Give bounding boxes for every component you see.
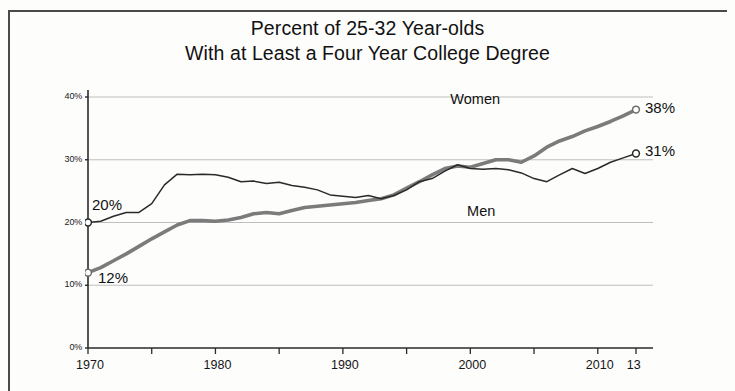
annotation-men-end: 31% bbox=[645, 142, 675, 159]
annotation-men-series: Men bbox=[467, 203, 495, 219]
chart-title-line-2: With at Least a Four Year College Degree bbox=[0, 41, 735, 66]
marker-men-end bbox=[633, 150, 640, 157]
annotation-women-series: Women bbox=[450, 91, 500, 107]
line-chart-svg bbox=[85, 90, 665, 355]
x-tick-label-1970: 1970 bbox=[76, 358, 104, 372]
gridlines bbox=[88, 97, 653, 348]
y-tick-label-20: 20% bbox=[48, 217, 82, 227]
annotation-women-start: 12% bbox=[98, 269, 128, 286]
y-tick-label-10: 10% bbox=[48, 279, 82, 289]
marker-men-start bbox=[85, 219, 91, 226]
page-title: Percent of 25-32 Year-olds With at Least… bbox=[0, 16, 735, 66]
x-tick-label-2010: 2010 bbox=[586, 358, 614, 372]
plot-area bbox=[85, 90, 665, 355]
series-lines bbox=[88, 110, 636, 273]
axis-ticks bbox=[85, 97, 636, 354]
series-line-women bbox=[88, 110, 636, 273]
x-tick-label-1990: 1990 bbox=[331, 358, 359, 372]
x-axis-tick-labels: 1970198019902000201013 bbox=[85, 358, 685, 378]
chart-title-line-1: Percent of 25-32 Year-olds bbox=[0, 16, 735, 41]
x-tick-label-2000: 2000 bbox=[458, 358, 486, 372]
annotation-men-start: 20% bbox=[92, 196, 122, 213]
marker-women-end bbox=[633, 106, 640, 113]
x-tick-label-2013-suffix: 13 bbox=[627, 358, 641, 372]
marker-women-start bbox=[85, 269, 91, 276]
x-tick-label-1980: 1980 bbox=[204, 358, 232, 372]
series-line-men bbox=[88, 153, 636, 222]
y-axis-tick-labels: 0%10%20%30%40% bbox=[44, 90, 82, 355]
chart-figure: Percent of 25-32 Year-olds With at Least… bbox=[0, 0, 735, 391]
annotation-women-end: 38% bbox=[645, 99, 675, 116]
y-tick-label-40: 40% bbox=[48, 91, 82, 101]
y-tick-label-0: 0% bbox=[48, 342, 82, 352]
y-tick-label-30: 30% bbox=[48, 154, 82, 164]
series-endpoint-markers bbox=[85, 106, 639, 276]
